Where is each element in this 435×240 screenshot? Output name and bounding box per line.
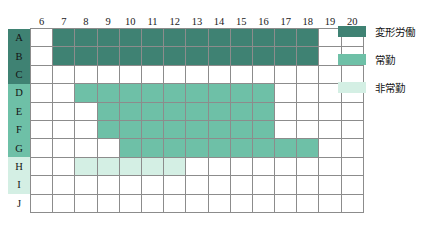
grid-cell-empty[interactable] [319,102,341,120]
grid-cell-filled[interactable] [119,84,141,102]
grid-cell-empty[interactable] [31,102,53,120]
grid-cell-empty[interactable] [119,65,141,83]
grid-cell-filled[interactable] [164,84,186,102]
grid-cell-empty[interactable] [53,139,75,157]
grid-cell-filled[interactable] [141,84,163,102]
grid-cell-empty[interactable] [252,176,274,194]
grid-cell-filled[interactable] [230,120,252,138]
grid-cell-filled[interactable] [186,120,208,138]
grid-cell-filled[interactable] [186,102,208,120]
grid-cell-empty[interactable] [230,176,252,194]
grid-cell-empty[interactable] [31,157,53,175]
grid-cell-filled[interactable] [75,47,97,65]
grid-cell-empty[interactable] [208,194,230,212]
grid-cell-empty[interactable] [319,157,341,175]
grid-cell-filled[interactable] [252,84,274,102]
grid-cell-filled[interactable] [275,139,297,157]
grid-cell-empty[interactable] [208,157,230,175]
grid-cell-empty[interactable] [75,102,97,120]
grid-cell-filled[interactable] [141,120,163,138]
grid-cell-empty[interactable] [275,102,297,120]
grid-cell-empty[interactable] [208,176,230,194]
grid-cell-empty[interactable] [186,157,208,175]
grid-cell-empty[interactable] [319,120,341,138]
grid-cell-filled[interactable] [252,47,274,65]
grid-cell-empty[interactable] [297,194,319,212]
grid-cell-filled[interactable] [208,139,230,157]
grid-cell-filled[interactable] [97,157,119,175]
grid-cell-filled[interactable] [53,29,75,47]
grid-cell-empty[interactable] [341,120,363,138]
grid-cell-filled[interactable] [230,29,252,47]
grid-cell-filled[interactable] [97,102,119,120]
grid-cell-filled[interactable] [208,29,230,47]
grid-cell-empty[interactable] [97,139,119,157]
grid-cell-filled[interactable] [119,120,141,138]
grid-cell-empty[interactable] [53,65,75,83]
grid-cell-empty[interactable] [53,157,75,175]
grid-cell-empty[interactable] [31,65,53,83]
grid-cell-empty[interactable] [319,176,341,194]
grid-cell-empty[interactable] [53,194,75,212]
grid-cell-filled[interactable] [297,29,319,47]
grid-cell-filled[interactable] [141,102,163,120]
grid-cell-empty[interactable] [252,65,274,83]
grid-cell-filled[interactable] [141,139,163,157]
grid-cell-filled[interactable] [275,47,297,65]
grid-cell-filled[interactable] [230,47,252,65]
grid-cell-empty[interactable] [141,194,163,212]
grid-cell-empty[interactable] [252,157,274,175]
grid-cell-filled[interactable] [141,47,163,65]
grid-cell-empty[interactable] [75,176,97,194]
grid-cell-filled[interactable] [119,157,141,175]
grid-cell-empty[interactable] [53,120,75,138]
grid-cell-filled[interactable] [141,157,163,175]
grid-cell-empty[interactable] [297,120,319,138]
grid-cell-empty[interactable] [31,47,53,65]
grid-cell-empty[interactable] [119,176,141,194]
grid-cell-filled[interactable] [141,29,163,47]
grid-cell-filled[interactable] [230,102,252,120]
grid-cell-filled[interactable] [186,84,208,102]
grid-cell-empty[interactable] [230,157,252,175]
grid-cell-filled[interactable] [186,47,208,65]
grid-cell-filled[interactable] [208,84,230,102]
grid-cell-empty[interactable] [230,194,252,212]
grid-cell-empty[interactable] [141,176,163,194]
grid-cell-empty[interactable] [252,194,274,212]
grid-cell-filled[interactable] [119,139,141,157]
grid-cell-filled[interactable] [164,29,186,47]
grid-cell-filled[interactable] [164,102,186,120]
grid-cell-filled[interactable] [75,157,97,175]
grid-cell-empty[interactable] [53,84,75,102]
grid-cell-empty[interactable] [297,84,319,102]
grid-cell-empty[interactable] [186,65,208,83]
grid-cell-empty[interactable] [31,176,53,194]
grid-cell-empty[interactable] [164,194,186,212]
grid-cell-filled[interactable] [208,47,230,65]
grid-cell-filled[interactable] [230,84,252,102]
grid-cell-empty[interactable] [341,139,363,157]
grid-cell-filled[interactable] [297,139,319,157]
grid-cell-filled[interactable] [252,139,274,157]
grid-cell-empty[interactable] [119,194,141,212]
grid-cell-empty[interactable] [319,139,341,157]
grid-cell-empty[interactable] [31,84,53,102]
grid-cell-empty[interactable] [341,102,363,120]
grid-cell-empty[interactable] [53,102,75,120]
grid-cell-filled[interactable] [208,120,230,138]
grid-cell-filled[interactable] [230,139,252,157]
grid-cell-empty[interactable] [297,176,319,194]
grid-cell-filled[interactable] [252,120,274,138]
grid-cell-filled[interactable] [297,47,319,65]
grid-cell-empty[interactable] [97,194,119,212]
grid-cell-empty[interactable] [208,65,230,83]
grid-cell-empty[interactable] [53,176,75,194]
grid-cell-empty[interactable] [275,65,297,83]
grid-cell-empty[interactable] [31,29,53,47]
grid-cell-empty[interactable] [141,65,163,83]
grid-cell-empty[interactable] [275,194,297,212]
grid-cell-filled[interactable] [186,29,208,47]
grid-cell-filled[interactable] [119,47,141,65]
grid-cell-empty[interactable] [186,176,208,194]
